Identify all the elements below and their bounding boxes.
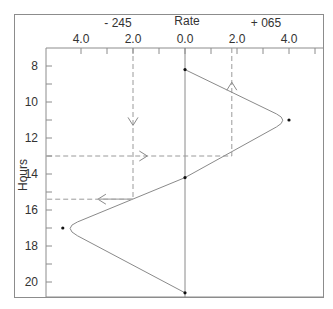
- x-axis: 4.02.00.02.04.0: [73, 32, 315, 54]
- x-tick-label: 4.0: [73, 32, 90, 46]
- y-tick-label: 20: [25, 275, 39, 289]
- y-tick-label: 10: [25, 95, 39, 109]
- data-point: [183, 68, 186, 71]
- data-curve: [61, 68, 290, 294]
- data-point: [183, 176, 186, 179]
- chart: 4.02.00.02.04.0 8101214161820 - 245 Rate…: [0, 0, 333, 309]
- y-tick-label: 18: [25, 239, 39, 253]
- y-tick-label: 12: [25, 131, 39, 145]
- x-tick-label: 4.0: [281, 32, 298, 46]
- y-axis-title: Hours: [16, 159, 30, 191]
- x-group-label-positive: + 065: [251, 16, 282, 30]
- y-tick-label: 16: [25, 203, 39, 217]
- x-group-label-negative: - 245: [104, 16, 132, 30]
- data-point: [287, 118, 290, 121]
- reference-lines: [47, 48, 232, 297]
- flow-arrows: [98, 82, 237, 204]
- data-point: [61, 226, 64, 229]
- y-tick-label: 8: [31, 59, 38, 73]
- x-tick-label: 0.0: [177, 32, 194, 46]
- x-axis-title: Rate: [174, 14, 200, 28]
- x-tick-label: 2.0: [229, 32, 246, 46]
- x-tick-label: 2.0: [125, 32, 142, 46]
- curve-line: [70, 70, 283, 293]
- data-point: [183, 291, 186, 294]
